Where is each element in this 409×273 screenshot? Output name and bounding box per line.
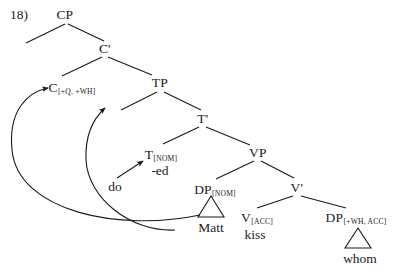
- vbar-to-v: [257, 196, 293, 208]
- vbar-to-dp-object: [301, 196, 346, 208]
- terminal-word-whom: whom: [343, 252, 377, 266]
- tbar-to-t: [163, 127, 199, 144]
- syntax-tree-figure: 18) CP C' C[+Q, +WH] TP T' T[NOM] VP DP[…: [0, 0, 409, 273]
- vp-to-dp-subject: [216, 161, 254, 179]
- do-support-insertion: [117, 161, 143, 178]
- node-tp: TP: [152, 76, 168, 90]
- triangle-whom: [345, 228, 371, 248]
- node-vbar: V': [291, 181, 304, 195]
- terminal-word-matt: Matt: [198, 221, 224, 235]
- node-v-label: V: [241, 210, 251, 225]
- triangle-matt: [198, 196, 224, 217]
- node-vbar-label: V': [291, 180, 303, 195]
- node-tbar-label: T': [197, 111, 208, 126]
- tp-to-tbar: [164, 92, 201, 110]
- node-dp-subject-label: DP: [194, 182, 211, 197]
- terminal-word-kiss: kiss: [244, 228, 265, 242]
- tbar-to-vp: [206, 127, 250, 145]
- node-dp-object-label: DP: [326, 210, 343, 225]
- node-c: C[+Q, +WH]: [49, 81, 96, 95]
- node-tp-label: TP: [152, 75, 168, 90]
- node-cp: CP: [56, 8, 73, 22]
- node-t: T[NOM]: [145, 148, 178, 162]
- node-cp-label: CP: [56, 7, 73, 22]
- cbar-to-c: [62, 57, 102, 76]
- terminal-word-do: do: [108, 180, 122, 194]
- tp-to-left-daughter: [121, 92, 157, 110]
- cbar-to-tp: [108, 57, 152, 75]
- node-cbar: C': [99, 42, 111, 56]
- cp-to-cbar: [68, 24, 104, 41]
- cp-to-left-daughter: [26, 24, 65, 43]
- node-dp-object-subscript: [+WH, ACC]: [343, 217, 386, 226]
- terminal-word-ed: -ed: [151, 164, 168, 178]
- node-dp-subject: DP[NOM]: [194, 183, 236, 197]
- node-dp-object: DP[+WH, ACC]: [326, 211, 387, 225]
- node-v: V[ACC]: [241, 211, 273, 225]
- node-vp-label: VP: [249, 145, 266, 160]
- node-v-subscript: [ACC]: [251, 217, 273, 226]
- node-tbar: T': [197, 112, 208, 126]
- node-cbar-label: C': [99, 41, 111, 56]
- node-c-label: C: [49, 80, 58, 95]
- vp-to-vbar: [261, 161, 294, 178]
- node-c-subscript: [+Q, +WH]: [58, 87, 96, 96]
- node-dp-subject-subscript: [NOM]: [212, 189, 236, 198]
- node-vp: VP: [249, 146, 267, 160]
- node-t-subscript: [NOM]: [153, 154, 177, 163]
